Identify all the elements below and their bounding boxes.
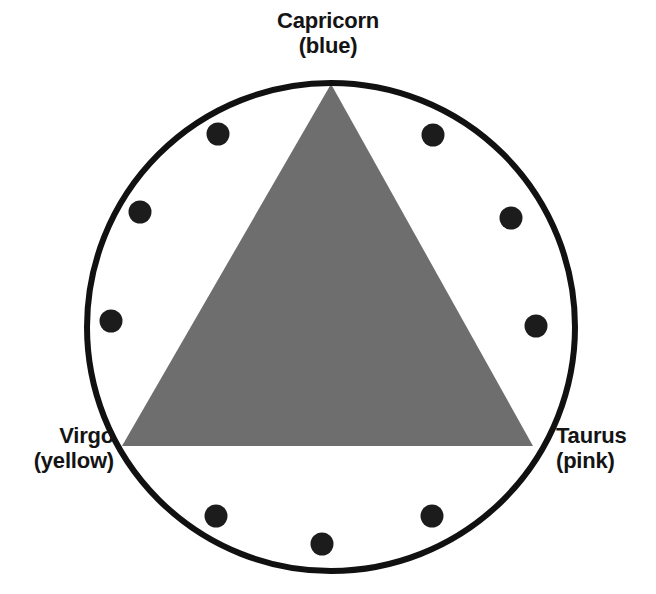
label-virgo-sign: Virgo: [0, 423, 114, 448]
elemental-trine: [122, 84, 533, 446]
zodiac-sign-marker: [500, 207, 523, 230]
zodiac-sign-marker: [421, 505, 444, 528]
zodiac-sign-marker: [129, 201, 152, 224]
zodiac-sign-marker: [525, 315, 548, 338]
diagram-canvas: Capricorn (blue) Virgo (yellow) Taurus (…: [0, 0, 656, 594]
label-capricorn-sign: Capricorn: [0, 8, 656, 33]
label-taurus: Taurus (pink): [556, 423, 656, 473]
label-virgo-color: (yellow): [0, 448, 114, 473]
zodiac-sign-marker: [311, 533, 334, 556]
label-capricorn: Capricorn (blue): [0, 8, 656, 58]
zodiac-sign-marker: [422, 124, 445, 147]
zodiac-wheel-graphic: [0, 0, 656, 594]
zodiac-sign-marker: [207, 123, 230, 146]
zodiac-sign-marker: [205, 505, 228, 528]
label-taurus-sign: Taurus: [556, 423, 656, 448]
zodiac-sign-marker: [100, 310, 123, 333]
label-taurus-color: (pink): [556, 448, 656, 473]
elemental-trine-group: [122, 84, 533, 446]
label-capricorn-color: (blue): [0, 33, 656, 58]
label-virgo: Virgo (yellow): [0, 423, 114, 473]
